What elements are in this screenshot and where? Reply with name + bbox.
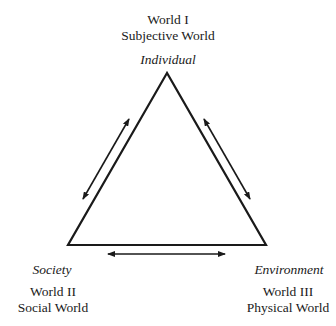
triangle-outline <box>68 73 266 245</box>
world-iii-label: World III Physical World <box>240 284 336 316</box>
individual-society-arrow <box>83 119 129 199</box>
world-iii-name: Physical World <box>240 300 336 316</box>
individual-environment-arrow <box>204 119 250 199</box>
environment-label: Environment <box>244 262 334 278</box>
world-ii-number: World II <box>8 284 98 300</box>
world-ii-name: Social World <box>8 300 98 316</box>
world-iii-number: World III <box>240 284 336 300</box>
world-ii-label: World II Social World <box>8 284 98 316</box>
society-label: Society <box>22 262 82 278</box>
